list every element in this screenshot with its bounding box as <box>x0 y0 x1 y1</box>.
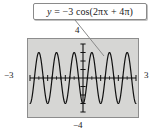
equation-argument: 2πx + 4π <box>93 6 130 17</box>
axes-group <box>30 44 136 112</box>
equation-lhs: y <box>47 6 52 17</box>
equation-equals: = <box>54 6 60 17</box>
plot-area <box>27 38 139 118</box>
y-max-label: 4 <box>75 26 80 35</box>
cosine-curve-plot <box>28 39 138 117</box>
x-max-label: 3 <box>144 71 149 80</box>
y-min-label: −4 <box>73 121 83 130</box>
equation-function: cos( <box>76 6 93 17</box>
equation-callout: y = −3 cos(2πx + 4π) <box>33 3 147 20</box>
figure-stage: y = −3 cos(2πx + 4π) 4 −4 −3 3 <box>0 0 157 139</box>
equation-text: y = −3 cos(2πx + 4π) <box>47 7 133 17</box>
equation-close-paren: ) <box>130 6 133 17</box>
equation-amplitude: −3 <box>63 6 74 17</box>
x-min-label: −3 <box>4 71 14 80</box>
